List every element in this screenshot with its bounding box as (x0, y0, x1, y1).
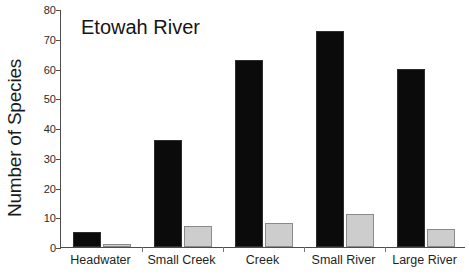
bar (397, 69, 425, 248)
y-tick-mark (56, 10, 61, 11)
bar (154, 140, 182, 247)
y-tick-label: 70 (30, 34, 56, 45)
bar (427, 229, 455, 247)
y-tick-mark (56, 129, 61, 130)
x-axis-label: Small River (312, 252, 376, 268)
y-tick-label: 20 (30, 183, 56, 194)
bar (316, 31, 344, 247)
y-tick-mark (56, 40, 61, 41)
y-tick-label: 30 (30, 153, 56, 164)
plot-area: Etowah River (60, 10, 465, 248)
y-tick-label: 80 (30, 5, 56, 16)
y-tick-mark (56, 218, 61, 219)
y-axis-title: Number of Species (0, 0, 30, 276)
bar-group (61, 10, 142, 247)
x-axis-label: Creek (246, 252, 279, 268)
bar-group (385, 10, 466, 247)
chart-root: Number of Species 01020304050607080 Etow… (0, 0, 469, 276)
x-axis-label: Headwater (70, 252, 130, 268)
bar (103, 244, 131, 247)
x-axis-tick-labels: HeadwaterSmall CreekCreekSmall RiverLarg… (60, 252, 465, 276)
bar (265, 223, 293, 247)
y-tick-mark (56, 99, 61, 100)
bar (346, 214, 374, 247)
x-axis-label: Small Creek (147, 252, 215, 268)
x-axis-label: Large River (392, 252, 457, 268)
bar-group (223, 10, 304, 247)
bar-group (304, 10, 385, 247)
bar (235, 60, 263, 247)
y-tick-mark (56, 189, 61, 190)
y-tick-mark (56, 248, 61, 249)
y-tick-label: 40 (30, 124, 56, 135)
y-tick-mark (56, 70, 61, 71)
y-tick-mark (56, 159, 61, 160)
y-tick-label: 50 (30, 94, 56, 105)
bar-groups (61, 10, 465, 247)
y-axis-tick-labels: 01020304050607080 (30, 0, 56, 276)
y-tick-label: 60 (30, 64, 56, 75)
bar (184, 226, 212, 247)
bar-group (142, 10, 223, 247)
bar (73, 232, 101, 247)
y-tick-label: 10 (30, 213, 56, 224)
y-tick-label: 0 (30, 243, 56, 254)
